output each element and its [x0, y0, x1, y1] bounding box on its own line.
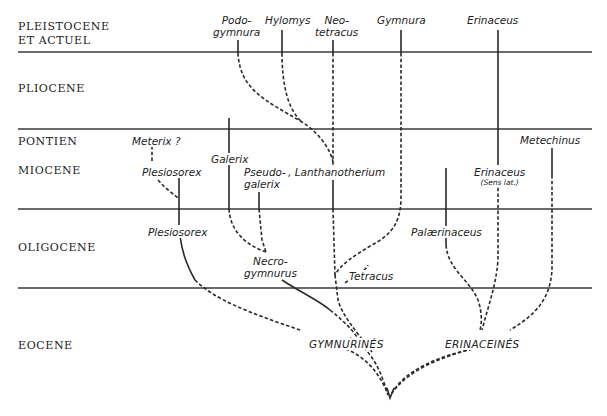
phylogeny-diagram: PLEISTOCENE ET ACTUEL PLIOCENE PONTIEN M… [0, 0, 607, 416]
taxon-tetracus: Tetracus [348, 270, 394, 282]
taxon-lanthanotherium: , Lanthanotherium [287, 166, 386, 178]
taxon-pseudogalerix: Pseudo- galerix [243, 166, 287, 190]
taxon-pseudogalerix-line2: galerix [244, 178, 286, 190]
taxon-pseudogalerix-line1: Pseudo- [244, 166, 286, 178]
taxon-hylomys: Hylomys [264, 14, 311, 26]
taxon-plesiosorex-oligocene: Plesiosorex [147, 226, 208, 238]
taxon-gymnura: Gymnura [376, 14, 427, 26]
taxon-erinaceus-sl-line2: (Sens lat.) [474, 178, 525, 187]
taxon-necrogymnurus: Necro- gymnurus [243, 255, 298, 279]
taxon-neotetracus-line2: tetracus [315, 26, 358, 38]
taxon-podogymnura-line1: Podo- [213, 14, 260, 26]
epoch-oligocene-label: OLIGOCENE [18, 241, 96, 255]
epoch-pleistocene-line2: ET ACTUEL [18, 34, 110, 48]
taxon-meterix: Meterix ? [131, 135, 181, 147]
epoch-miocene-label: MIOCENE [18, 164, 81, 178]
taxon-metechinus: Metechinus [519, 134, 581, 146]
taxon-podogymnura-line2: gymnura [213, 26, 260, 38]
taxon-podogymnura: Podo- gymnura [212, 14, 261, 38]
taxon-necrogymnurus-line2: gymnurus [244, 267, 297, 279]
taxon-neotetracus: Neo- tetracus [314, 14, 359, 38]
taxon-plesiosorex-miocene: Plesiosorex [141, 166, 202, 178]
phylogeny-lines [0, 0, 607, 416]
epoch-eocene-label: EOCENE [18, 339, 73, 353]
taxon-erinaceus-sl-line1: Erinaceus [474, 166, 525, 178]
epoch-pliocene-label: PLIOCENE [18, 82, 85, 96]
group-gymnurines: GYMNURINÉS [308, 338, 385, 350]
group-erinaceines: ERINACEINÉS [444, 338, 521, 350]
taxon-erinaceus-sens-lat: Erinaceus (Sens lat.) [473, 166, 526, 187]
epoch-pleistocene-line1: PLEISTOCENE [18, 20, 110, 34]
taxon-necrogymnurus-line1: Necro- [244, 255, 297, 267]
taxon-galerix: Galerix [210, 153, 249, 165]
epoch-pleistocene-label: PLEISTOCENE ET ACTUEL [18, 20, 110, 48]
taxon-neotetracus-line1: Neo- [315, 14, 358, 26]
taxon-erinaceus: Erinaceus [466, 14, 519, 26]
epoch-pontien-label: PONTIEN [18, 135, 78, 149]
taxon-palaerinaceus: Palærinaceus [410, 226, 483, 238]
